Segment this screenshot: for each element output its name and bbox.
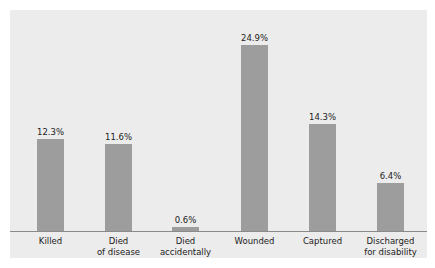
bar	[37, 139, 64, 231]
category-label: Discharged for disability	[351, 236, 431, 258]
value-label: 12.3%	[21, 127, 81, 137]
bar	[309, 124, 336, 231]
value-label: 14.3%	[293, 112, 353, 122]
bar	[105, 144, 132, 231]
category-label: Died accidentally	[146, 236, 226, 258]
value-label: 11.6%	[89, 132, 149, 142]
bar	[241, 45, 268, 231]
bar	[377, 183, 404, 231]
value-label: 0.6%	[156, 215, 216, 225]
x-axis-line	[10, 231, 427, 232]
value-label: 24.9%	[225, 33, 285, 43]
value-label: 6.4%	[361, 171, 421, 181]
